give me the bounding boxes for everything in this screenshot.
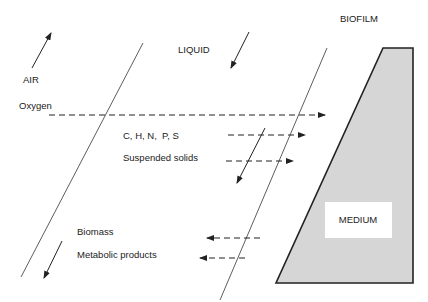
suspended-solids-label: Suspended solids [123,152,198,163]
biofilm-label: BIOFILM [340,13,378,24]
biofilm-shape [276,48,413,283]
liquid-lower-flow-arrow-icon [237,128,265,183]
biofilm-diagram: MEDIUM AIR LIQUID BIOFILM Oxygen C, H, N… [0,0,428,302]
medium-label: MEDIUM [339,214,378,225]
oxygen-label: Oxygen [19,100,52,111]
nutrients-label: C, H, N, P, S [123,130,179,141]
air-label: AIR [23,74,39,85]
liquid-flow-arrow-icon [231,32,249,68]
metabolic-products-label: Metabolic products [77,249,157,260]
air-flow-arrow-icon [32,33,51,68]
liquid-label: LIQUID [178,44,210,55]
biomass-label: Biomass [77,226,114,237]
air-lower-flow-arrow-icon [44,241,62,278]
